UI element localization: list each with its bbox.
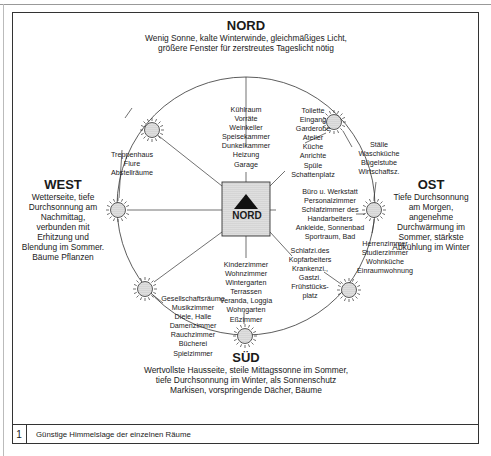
rooms-north-east: Toilette Eingang Garderobe Atelier Küche… — [280, 106, 346, 179]
rooms-south-east: Schlafzi.des Kopfarbeiters Krankenzi., G… — [280, 246, 340, 301]
figure-caption: 1 Günstige Himmelslage der einzelnen Räu… — [12, 424, 479, 444]
sun-south-icon — [233, 324, 257, 348]
center-north-label: NORD — [222, 210, 272, 221]
sun-southwest-icon — [133, 277, 157, 301]
rooms-south-west: Gesellschaftsräume Musikzimmer Diele, Ha… — [155, 294, 231, 358]
rooms-north: Kühlraum Vorräte Weinkeller Speisekammer… — [210, 105, 282, 169]
west-title: WEST — [14, 178, 112, 192]
north-title: NORD — [96, 19, 396, 33]
sun-southeast-icon — [337, 278, 361, 302]
figure-caption-text: Günstige Himmelslage der einzelnen Räume — [36, 425, 191, 444]
east-title: OST — [383, 178, 479, 192]
figure-number: 1 — [12, 425, 27, 444]
rooms-east-north: Ställe Waschküche Bügelstube Wirtschafts… — [348, 140, 410, 176]
west-description: Wetterseite, tiefe Durchsonnung am Nachm… — [14, 192, 112, 262]
north-block: NORD Wenig Sonne, kalte Winterwinde, gle… — [96, 19, 396, 53]
rooms-west: Treppenhaus Flure Abstellräume — [102, 150, 162, 177]
sun-northwest-icon — [140, 118, 164, 142]
rooms-east-south: Herrenzimmer Studierzimmer Wohnküche Ein… — [350, 239, 420, 275]
rooms-east: Büro u. Werkstatt Personalzimmer Schlafz… — [290, 187, 370, 242]
south-description: Wertvollste Hausseite, steile Mittagsson… — [136, 365, 356, 395]
west-block: WEST Wetterseite, tiefe Durchsonnung am … — [14, 178, 112, 262]
north-description: Wenig Sonne, kalte Winterwinde, gleichmä… — [96, 33, 396, 53]
